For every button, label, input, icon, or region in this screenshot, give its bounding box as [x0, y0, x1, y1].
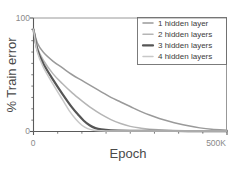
x-axis-title: Epoch	[110, 146, 147, 161]
legend-label-4: 4 hidden layers	[158, 52, 212, 61]
legend-label-2: 2 hidden layers	[158, 30, 212, 39]
legend-label-1: 1 hidden layer	[158, 19, 209, 28]
chart-canvas: 100 0 0 500K Epoch % Train error 1 hidde…	[0, 0, 242, 170]
y-axis-top-tick-label: 100	[16, 13, 30, 23]
y-axis-bottom-tick-label: 0	[25, 126, 30, 136]
y-axis-title: % Train error	[4, 37, 19, 113]
x-axis-left-tick-label: 0	[31, 138, 36, 148]
train-error-chart: 100 0 0 500K Epoch % Train error 1 hidde…	[0, 0, 242, 170]
x-axis-right-tick-label: 500K	[206, 138, 226, 148]
legend-label-3: 3 hidden layers	[158, 41, 212, 50]
